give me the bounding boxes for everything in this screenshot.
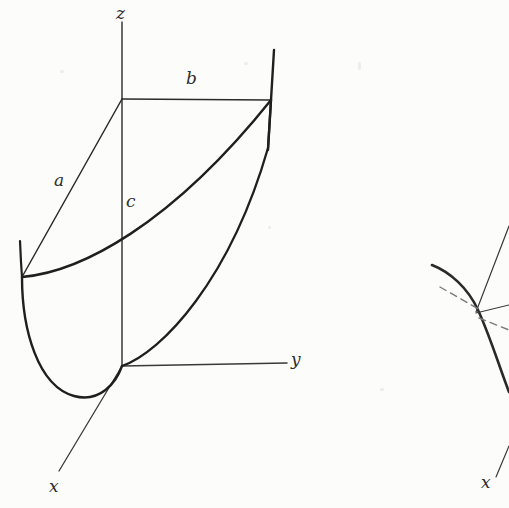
axis-label-y: y	[291, 351, 301, 368]
scan-speck	[60, 70, 64, 73]
axis-label-x: x	[49, 478, 59, 495]
curve-left-generator	[20, 241, 22, 277]
secondary-thin-line-upper	[476, 226, 509, 312]
edge-a	[22, 99, 122, 277]
secondary-axis-label-x: x	[481, 474, 491, 491]
scan-speck	[358, 62, 361, 70]
curve-side-parabola	[122, 100, 271, 366]
axis-y-line	[122, 363, 287, 366]
figure-secondary	[432, 226, 509, 477]
dimension-label-b: b	[186, 70, 197, 87]
curve-lower-parabola	[22, 277, 122, 397]
secondary-thick-arc	[432, 265, 509, 392]
scan-speck	[268, 226, 271, 229]
dimension-label-a: a	[54, 172, 64, 189]
secondary-axis-x-stub	[496, 446, 509, 477]
secondary-thin-line-right	[476, 305, 509, 313]
axis-label-z: z	[116, 5, 125, 22]
scan-speck	[380, 388, 384, 391]
secondary-dashed-line-a	[440, 287, 480, 310]
scan-speck	[244, 62, 248, 65]
figure-page: z y x a b c x	[0, 0, 509, 508]
figure-main	[20, 22, 287, 471]
dimension-label-c: c	[126, 193, 136, 210]
edge-b	[122, 99, 271, 100]
figure-canvas	[0, 0, 509, 508]
